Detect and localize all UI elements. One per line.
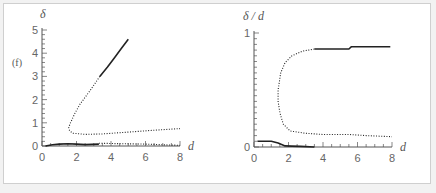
- x-tick-label: 0: [39, 151, 45, 163]
- x-tick-label: 4: [320, 152, 326, 164]
- y-axis-label: δ / d: [243, 9, 265, 23]
- x-tick-label: 4: [108, 151, 114, 163]
- x-tick-label: 2: [285, 152, 291, 164]
- unstable-branch-curve: [278, 49, 392, 137]
- x-axis-label: d: [400, 140, 407, 154]
- x-tick-label: 8: [177, 151, 183, 163]
- panel-right-delta-over-d-vs-d: δ / d d 0246801: [243, 9, 407, 164]
- y-axis-label: δ: [40, 7, 46, 21]
- panel-left-delta-vs-d: (f) δ d 02468012345: [12, 7, 195, 163]
- y-tick-label: 5: [32, 24, 38, 36]
- x-tick-label: 8: [389, 152, 395, 164]
- x-tick-label: 0: [251, 152, 257, 164]
- unstable-branch-curve: [69, 76, 180, 134]
- data-series: [257, 47, 392, 147]
- y-tick-label: 0: [244, 141, 250, 153]
- figure-canvas: (f) δ d 02468012345 δ / d d 0246801: [0, 0, 436, 193]
- x-tick-label: 6: [142, 151, 148, 163]
- stable-branch-curve: [314, 47, 390, 49]
- y-tick-label: 1: [32, 117, 38, 129]
- y-tick-label: 3: [32, 70, 38, 82]
- panel-tag: (f): [12, 57, 22, 69]
- data-series: [46, 39, 181, 146]
- y-tick-label: 0: [32, 140, 38, 152]
- x-tick-label: 2: [73, 151, 79, 163]
- tick-labels: 0246801: [244, 27, 395, 164]
- x-axis-label: d: [188, 139, 195, 153]
- y-tick-label: 2: [32, 94, 38, 106]
- stable-branch-curve: [100, 39, 129, 76]
- x-tick-label: 6: [354, 152, 360, 164]
- axes: [42, 28, 180, 146]
- tick-labels: 02468012345: [32, 24, 183, 163]
- y-tick-label: 4: [32, 47, 38, 59]
- y-tick-label: 1: [244, 27, 250, 39]
